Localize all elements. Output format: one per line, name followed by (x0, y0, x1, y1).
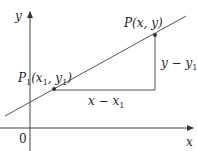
point-p-label: P(x, y) (123, 16, 163, 30)
horizontal-leg-label: x − x1 (88, 94, 124, 110)
point-p1 (52, 87, 56, 91)
x-axis-label: x (186, 135, 193, 149)
y-axis-label: y (14, 9, 22, 23)
origin-label: 0 (19, 132, 27, 146)
point-p1-label: P1(x1, y1) (17, 71, 72, 87)
diagram-canvas: y x 0 P(x, y) P1(x1, y1) x − x1 y − y1 (0, 0, 197, 151)
point-p (153, 33, 157, 37)
vertical-leg-label: y − y1 (160, 56, 197, 72)
slope-diagram: y x 0 P(x, y) P1(x1, y1) x − x1 y − y1 (0, 0, 197, 151)
